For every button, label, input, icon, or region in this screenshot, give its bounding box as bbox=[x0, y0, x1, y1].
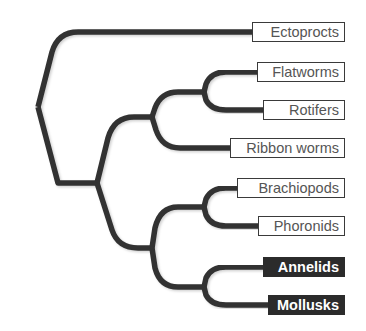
branch-nodeC-to-ann-mol bbox=[152, 248, 204, 287]
branch-ribbon-worms bbox=[152, 117, 232, 148]
taxon-label-rotifers: Rotifers bbox=[263, 100, 345, 120]
branch-rotifers bbox=[204, 92, 265, 110]
branch-annelids bbox=[204, 267, 265, 287]
branch-brachiopods bbox=[204, 188, 239, 207]
taxon-label-ectoprocts: Ectoprocts bbox=[252, 22, 345, 42]
branch-nodeC-to-brach-phor bbox=[152, 207, 204, 248]
branch-ectoprocts bbox=[38, 32, 254, 107]
branch-phoronids bbox=[204, 207, 260, 226]
taxon-label-flatworms: Flatworms bbox=[257, 62, 345, 82]
branch-nodeA-to-nodeC bbox=[97, 183, 152, 248]
taxon-label-brachiopods: Brachiopods bbox=[237, 178, 345, 198]
branch-nodeB-to-flat-rot bbox=[152, 92, 204, 117]
branch-root-to-nodeA bbox=[38, 107, 97, 183]
taxon-label-mollusks: Mollusks bbox=[268, 295, 345, 315]
taxon-label-phoronids: Phoronids bbox=[258, 216, 345, 236]
taxon-label-annelids: Annelids bbox=[263, 257, 345, 277]
branch-flatworms bbox=[204, 72, 259, 92]
phylogenetic-tree bbox=[0, 0, 366, 331]
branch-mollusks bbox=[204, 287, 270, 305]
taxon-label-ribbon-worms: Ribbon worms bbox=[230, 138, 345, 158]
branch-nodeA-to-nodeB bbox=[97, 117, 152, 183]
